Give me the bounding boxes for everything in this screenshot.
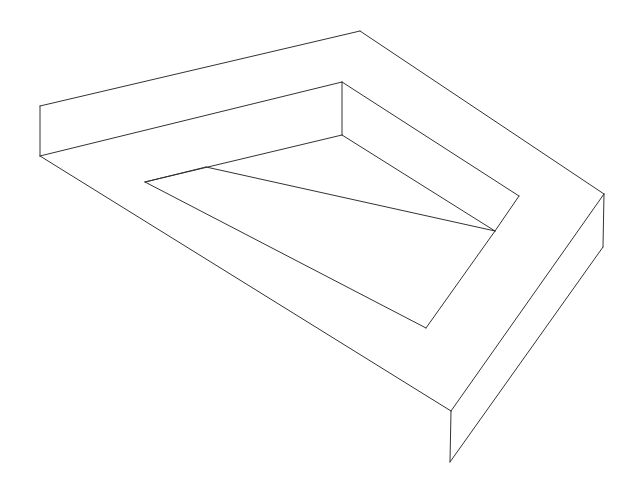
edge-line <box>450 247 603 462</box>
edge-line <box>40 31 360 106</box>
edge-line <box>426 231 495 328</box>
edge-line <box>342 82 519 196</box>
edge-line <box>145 167 206 182</box>
edge-line <box>450 411 451 462</box>
edge-line <box>40 82 342 156</box>
edge-line <box>145 182 426 328</box>
edge-line <box>206 167 495 231</box>
edge-line <box>342 135 495 231</box>
edge-line <box>495 196 519 231</box>
edge-line <box>40 156 451 411</box>
edge-line <box>603 194 604 247</box>
impossible-frame-drawing <box>0 0 637 481</box>
